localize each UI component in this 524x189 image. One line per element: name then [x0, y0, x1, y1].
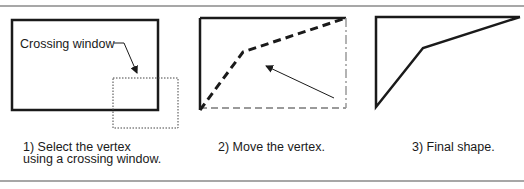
- panel-1-caption-line2: using a crossing window.: [23, 152, 161, 166]
- vertex-edit-diagram: Crossing window 1) Select the vertex usi…: [0, 0, 524, 189]
- panel-3-final-shape: 3) Final shape.: [376, 17, 520, 154]
- panel-1-select-vertex: Crossing window 1) Select the vertex usi…: [12, 20, 178, 166]
- rubberband-edges: [200, 18, 346, 110]
- move-arrow: [266, 66, 334, 98]
- crossing-window-leader: [114, 43, 137, 73]
- crossing-window: [113, 78, 178, 128]
- panel-3-caption: 3) Final shape.: [412, 140, 495, 154]
- panel-2-caption: 2) Move the vertex.: [218, 140, 325, 154]
- crossing-window-label: Crossing window: [20, 37, 115, 51]
- final-shape-outline: [376, 17, 520, 107]
- original-rectangle: [12, 20, 158, 110]
- panel-2-move-vertex: 2) Move the vertex.: [200, 18, 346, 154]
